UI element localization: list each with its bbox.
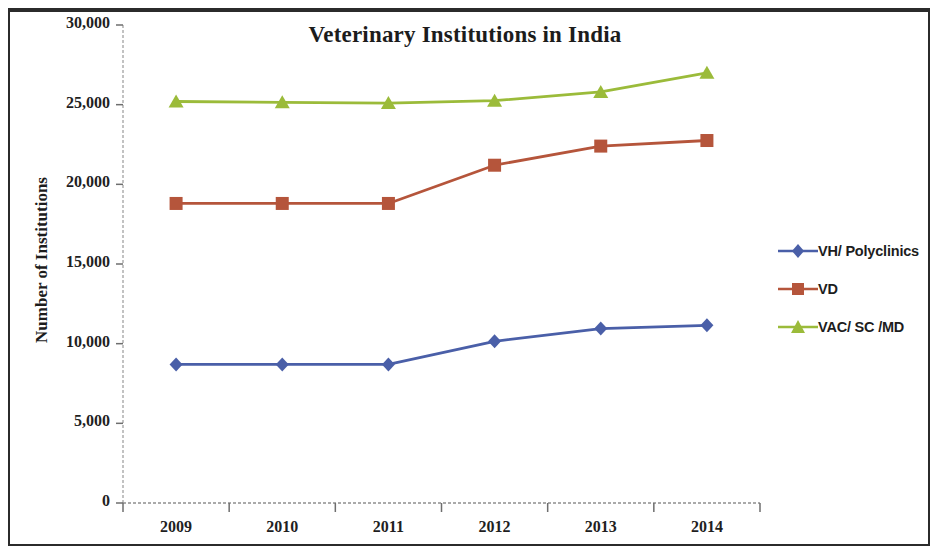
data-point-square — [170, 197, 183, 210]
series-line-0 — [176, 325, 707, 364]
x-axis-tick-label: 2012 — [455, 518, 535, 536]
legend-label-2: VAC/ SC /MD — [818, 319, 904, 335]
data-point-square — [594, 140, 607, 153]
data-point-square — [488, 159, 501, 172]
x-axis-tick-label: 2014 — [667, 518, 747, 536]
data-point-diamond — [170, 357, 183, 371]
data-point-diamond — [594, 322, 607, 336]
axes-group — [116, 25, 760, 512]
diamond-marker-icon — [778, 242, 818, 260]
data-point-diamond — [382, 357, 395, 371]
legend-item-2: VAC/ SC /MD — [778, 308, 928, 346]
data-point-diamond — [488, 334, 501, 348]
legend-item-1: VD — [778, 270, 928, 308]
chart-screenshot: Veterinary Institutions in India Number … — [0, 0, 933, 551]
data-point-triangle — [699, 66, 714, 79]
x-axis-tick-label: 2010 — [242, 518, 322, 536]
series-line-1 — [176, 141, 707, 204]
triangle-marker-icon — [778, 318, 818, 336]
series-line-2 — [176, 73, 707, 103]
square-marker-icon — [778, 280, 818, 298]
x-axis-tick-label: 2009 — [136, 518, 216, 536]
data-point-square — [700, 134, 713, 147]
data-point-diamond — [700, 318, 713, 332]
data-point-square — [276, 197, 289, 210]
legend-label-1: VD — [818, 281, 838, 297]
data-point-square — [382, 197, 395, 210]
legend-item-0: VH/ Polyclinics — [778, 232, 928, 270]
x-axis-tick-label: 2011 — [348, 518, 428, 536]
chart-legend: VH/ Polyclinics VD VAC/ SC /MD — [778, 232, 928, 346]
legend-label-0: VH/ Polyclinics — [818, 243, 919, 259]
x-axis-tick-label: 2013 — [561, 518, 641, 536]
data-point-diamond — [276, 357, 289, 371]
series-group — [169, 66, 715, 372]
